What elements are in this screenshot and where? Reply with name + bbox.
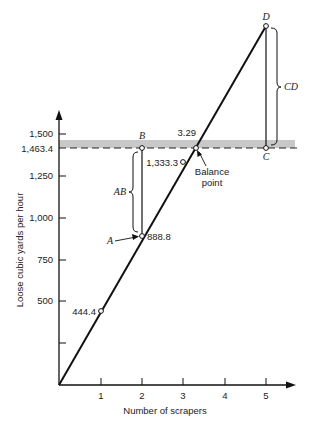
point-label: 444.4 [72, 306, 96, 317]
balance-label: point [202, 177, 223, 188]
x-axis-label: Number of scrapers [123, 405, 207, 416]
a-arrowhead-icon [132, 234, 139, 240]
x-tick-label: 5 [263, 390, 268, 401]
balance-x-label: 3.29 [178, 127, 197, 138]
y-axis-label: Loose cubic yards per hour [14, 193, 25, 308]
x-axis-arrow-icon [286, 382, 296, 389]
label-d: D [261, 11, 270, 22]
y-tick-label: 1,250 [29, 170, 53, 181]
y-tick-label: 500 [37, 295, 53, 306]
y-axis-arrow-icon [56, 110, 63, 120]
chart: 500 750 1,000 1,250 1,500 1,463.4 1 2 3 … [0, 0, 314, 423]
label-a: A [106, 235, 114, 246]
brace-ab-icon [129, 152, 138, 232]
label-cd: CD [284, 81, 299, 92]
point-label: 888.8 [147, 231, 171, 242]
y-tick-label: 1,500 [29, 128, 53, 139]
point-label: 1,333.3 [146, 157, 178, 168]
label-c: C [263, 151, 270, 162]
label-ab: AB [113, 186, 126, 197]
x-tick-label: 2 [139, 390, 144, 401]
x-tick-label: 4 [222, 390, 227, 401]
brace-cd-icon [271, 28, 281, 145]
capacity-band [59, 140, 295, 148]
reference-value-label: 1,463.4 [21, 143, 53, 154]
production-line [59, 26, 266, 385]
x-ticks [101, 378, 266, 385]
y-tick-label: 1,000 [29, 212, 53, 223]
x-tick-label: 1 [98, 390, 103, 401]
y-ticks [59, 134, 66, 343]
y-tick-label: 750 [37, 254, 53, 265]
label-b: B [139, 130, 145, 141]
balance-label: Balance [195, 166, 229, 177]
x-tick-label: 3 [180, 390, 185, 401]
